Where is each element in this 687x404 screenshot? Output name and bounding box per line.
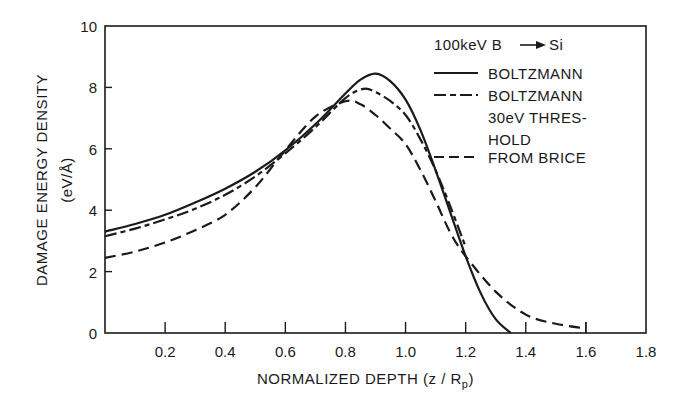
y-tick-label: 0: [89, 325, 97, 342]
y-axis-units-group: (eV/Å): [58, 157, 75, 203]
x-axis-ticks: 0.20.40.60.81.01.21.41.61.8: [155, 322, 657, 360]
y-axis-units: (eV/Å): [58, 157, 75, 203]
y-axis-ticks: 0246810: [80, 18, 112, 342]
x-tick-label: 1.2: [455, 343, 476, 360]
legend-label-from-brice: FROM BRICE: [488, 149, 586, 166]
x-axis-title-close: ): [468, 370, 474, 387]
x-tick-label: 0.2: [155, 343, 176, 360]
y-tick-label: 8: [89, 79, 97, 96]
x-axis-title: NORMALIZED DEPTH (z / Rp): [257, 370, 474, 390]
y-axis-title: DAMAGE ENERGY DENSITY: [33, 74, 50, 286]
x-tick-label: 0.4: [215, 343, 236, 360]
y-tick-label: 2: [89, 264, 97, 281]
y-tick-label: 6: [89, 141, 97, 158]
x-tick-label: 0.6: [275, 343, 296, 360]
legend-label-boltzmann-threshold-2: 30eV THRES-: [488, 109, 587, 126]
legend-label-boltzmann-threshold-3: HOLD: [488, 131, 531, 148]
legend-label-boltzmann: BOLTZMANN: [488, 65, 583, 82]
legend-header-prefix: 100keV B: [434, 36, 502, 53]
arrow-right-icon: [520, 41, 546, 49]
x-tick-label: 1.0: [395, 343, 416, 360]
x-axis-title-main: NORMALIZED DEPTH (z / R: [257, 370, 462, 387]
legend-header-suffix: Si: [549, 36, 563, 53]
x-axis-title-subscript: p: [462, 378, 469, 390]
damage-energy-chart: 0246810 0.20.40.60.81.01.21.41.61.8 DAMA…: [0, 0, 687, 404]
x-tick-label: 0.8: [335, 343, 356, 360]
legend-label-boltzmann-threshold-1: BOLTZMANN: [488, 87, 583, 104]
y-axis-title-group: DAMAGE ENERGY DENSITY: [33, 74, 50, 286]
x-tick-label: 1.6: [575, 343, 596, 360]
legend: 100keV B Si BOLTZMANN BOLTZMANN 30eV THR…: [434, 36, 587, 166]
y-tick-label: 10: [80, 18, 97, 35]
x-tick-label: 1.8: [636, 343, 657, 360]
x-tick-label: 1.4: [515, 343, 536, 360]
legend-header: 100keV B: [434, 36, 502, 53]
y-tick-label: 4: [89, 202, 97, 219]
